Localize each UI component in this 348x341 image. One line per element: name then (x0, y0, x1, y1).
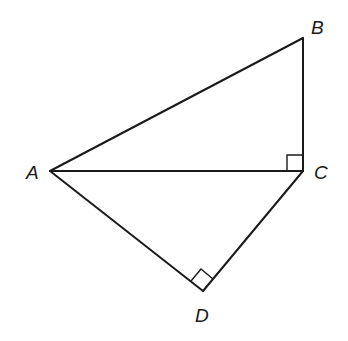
segment-ad (50, 171, 203, 291)
label-c: C (314, 162, 328, 183)
label-b: B (311, 17, 324, 38)
label-d: D (195, 305, 209, 326)
segment-cd (203, 171, 303, 291)
label-a: A (25, 162, 39, 183)
right-angle-marker-d (191, 269, 213, 281)
geometry-diagram: A B C D (0, 0, 348, 341)
right-angle-marker-c (287, 155, 303, 171)
segment-ab (50, 38, 303, 171)
